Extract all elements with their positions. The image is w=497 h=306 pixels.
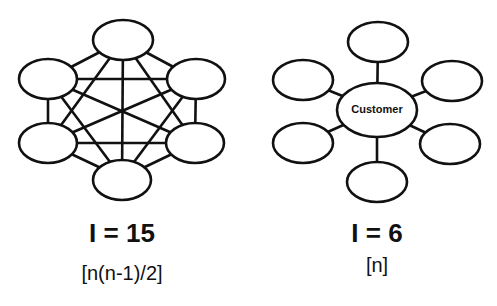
mesh-node-lower-left [19, 123, 77, 163]
mesh-node-lower-right [166, 123, 224, 163]
spoke-node-bottom [347, 162, 407, 202]
mesh-node-bottom [93, 160, 151, 200]
spoke-node-upper-left [273, 60, 333, 100]
spoke-interface-count: I = 6 [317, 218, 437, 249]
spoke-node-top [348, 22, 408, 62]
spoke-node-lower-right [420, 124, 480, 164]
spoke-formula: [n] [317, 254, 437, 277]
mesh-node-top [93, 20, 153, 60]
spoke-node-upper-right [422, 61, 482, 101]
diagram-canvas: Customer I = 15 [n(n-1)/2] I = 6 [n] [0, 0, 497, 306]
mesh-node-upper-left [19, 59, 77, 99]
full-mesh-diagram [19, 20, 225, 200]
customer-label: Customer [337, 103, 417, 115]
mesh-node-upper-right [167, 59, 225, 99]
mesh-interface-count: I = 15 [62, 218, 182, 249]
spoke-node-lower-left [273, 123, 333, 163]
mesh-formula: [n(n-1)/2] [62, 262, 182, 285]
